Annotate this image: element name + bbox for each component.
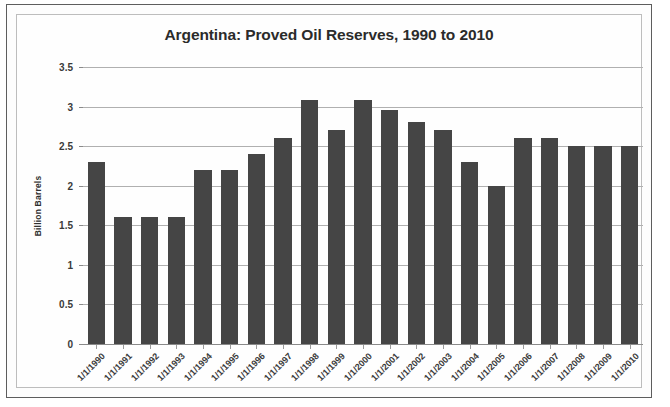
bar [221, 170, 238, 344]
chart-area: Argentina: Proved Oil Reserves, 1990 to … [16, 14, 642, 388]
x-tick-mark [576, 345, 577, 349]
y-tick-label: 0.5 [33, 299, 73, 310]
x-axis-labels: 1/1/19901/1/19911/1/19921/1/19931/1/1994… [83, 345, 643, 405]
y-tick-mark [79, 107, 83, 108]
bar [461, 162, 478, 344]
x-tick-mark [96, 345, 97, 349]
bar [194, 170, 211, 344]
y-tick-label: 3.5 [33, 62, 73, 73]
x-tick-mark [470, 345, 471, 349]
x-tick-mark [230, 345, 231, 349]
x-tick-mark [283, 345, 284, 349]
x-tick-mark [523, 345, 524, 349]
bar [328, 130, 345, 344]
bar [621, 146, 638, 344]
x-tick-mark [256, 345, 257, 349]
y-tick-mark [79, 304, 83, 305]
x-tick-mark [203, 345, 204, 349]
x-tick-mark [416, 345, 417, 349]
y-tick-mark [79, 146, 83, 147]
x-tick-mark [496, 345, 497, 349]
bar [594, 146, 611, 344]
bar [488, 186, 505, 344]
bar [541, 138, 558, 344]
y-tick-mark [79, 225, 83, 226]
bar [274, 138, 291, 344]
bar [408, 122, 425, 344]
x-tick-mark [310, 345, 311, 349]
y-tick-label: 1 [33, 259, 73, 270]
bar [248, 154, 265, 344]
bar [141, 217, 158, 344]
y-tick-label: 3 [33, 101, 73, 112]
bar [168, 217, 185, 344]
y-tick-label: 2 [33, 180, 73, 191]
x-tick-mark [363, 345, 364, 349]
x-tick-mark [150, 345, 151, 349]
chart-title: Argentina: Proved Oil Reserves, 1990 to … [17, 26, 641, 44]
y-tick-mark [79, 67, 83, 68]
bar [381, 110, 398, 344]
x-tick-mark [443, 345, 444, 349]
bar [354, 100, 371, 344]
plot-area: 3.532.521.510.50 [83, 67, 643, 344]
x-tick-mark [176, 345, 177, 349]
y-tick-label: 2.5 [33, 141, 73, 152]
y-tick-label: 1.5 [33, 220, 73, 231]
bar [301, 100, 318, 344]
bar [434, 130, 451, 344]
x-tick-mark [630, 345, 631, 349]
bar [88, 162, 105, 344]
x-tick-mark [550, 345, 551, 349]
x-tick-mark [336, 345, 337, 349]
bar [568, 146, 585, 344]
bar [514, 138, 531, 344]
chart-outer-frame: Argentina: Proved Oil Reserves, 1990 to … [6, 4, 652, 398]
x-tick-mark [390, 345, 391, 349]
y-tick-mark [79, 265, 83, 266]
bar [114, 217, 131, 344]
x-tick-mark [603, 345, 604, 349]
x-tick-mark [123, 345, 124, 349]
y-tick-label: 0 [33, 339, 73, 350]
y-tick-mark [79, 186, 83, 187]
gridline [83, 67, 643, 68]
